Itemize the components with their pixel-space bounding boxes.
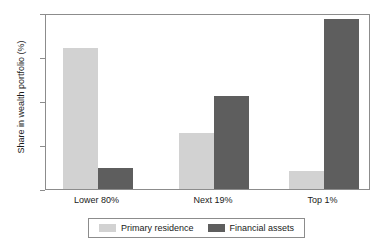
y-axis-title: Share in wealth portfolio (%) — [14, 2, 28, 192]
bar-primary-residence — [179, 133, 214, 189]
y-axis-tick-label-text: 60 — [0, 53, 1, 62]
x-axis-tick-label: Top 1% — [273, 193, 373, 207]
y-axis-tick-label: 20 — [0, 141, 7, 151]
legend-swatch-primary-residence — [99, 224, 116, 232]
y-axis-tick-mark — [40, 190, 45, 191]
legend-label: Primary residence — [121, 223, 194, 233]
y-axis-tick-label: 40 — [0, 97, 7, 107]
x-axis-tick-label: Next 19% — [163, 193, 263, 207]
legend-entry: Financial assets — [208, 223, 295, 233]
y-axis-tick-label-text: 0 — [0, 188, 1, 193]
y-axis-tick-label: 80 — [0, 9, 7, 19]
x-axis-tick-label: Lower 80% — [47, 193, 147, 207]
bar-primary-residence — [289, 171, 324, 189]
bar-financial-assets — [324, 19, 359, 189]
chart-legend: Primary residenceFinancial assets — [88, 218, 305, 238]
bar-financial-assets — [214, 96, 249, 190]
bar-primary-residence — [63, 48, 98, 189]
y-axis-tick-label: 0 — [0, 185, 7, 195]
y-axis-tick-label-text: 80 — [0, 9, 1, 18]
y-axis-tick-label-text: 40 — [0, 97, 1, 106]
legend-label: Financial assets — [230, 223, 295, 233]
bar-financial-assets — [98, 168, 133, 189]
legend-swatch-financial-assets — [208, 224, 225, 232]
legend-entry: Primary residence — [99, 223, 194, 233]
y-axis-tick-label: 60 — [0, 53, 7, 63]
plot-area — [45, 14, 370, 190]
y-axis-tick-label-text: 20 — [0, 141, 1, 150]
bar-chart-figure: Share in wealth portfolio (%) 020406080 … — [0, 0, 386, 244]
